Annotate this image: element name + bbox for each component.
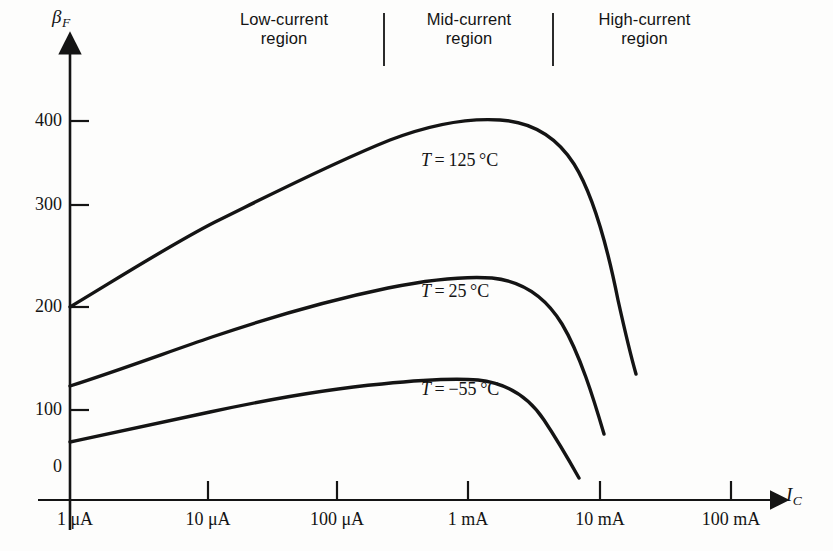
x-axis-label-subscript: C (792, 493, 802, 508)
curve-label-t125-equals: = (431, 150, 448, 170)
y-tick-label-0: 0 (0, 456, 62, 477)
curve-tm55 (70, 379, 579, 478)
curve-label-tm55-equals: = (431, 379, 448, 399)
x-axis-label: IC (786, 484, 802, 509)
region-label-high-current: High-current region (562, 10, 727, 49)
y-axis-ticks (70, 121, 89, 410)
curve-t125 (70, 120, 636, 374)
curve-label-tm55-value: −55 °C (448, 379, 499, 399)
chart-plot-area (0, 0, 833, 551)
x-tick-label-1ua: 1 μA (30, 509, 120, 530)
curve-label-t125-value: 125 °C (448, 150, 498, 170)
curve-label-t25: T = 25 °C (421, 281, 489, 302)
y-axis-label-subscript: F (61, 15, 70, 30)
x-tick-label-10ua: 10 μA (156, 509, 260, 530)
curve-label-t25-value: 25 °C (448, 281, 489, 301)
region-label-mid-current: Mid-current region (393, 10, 545, 49)
curve-label-tm55-symbol: T (421, 379, 431, 399)
curve-label-tm55: T = −55 °C (421, 379, 499, 400)
y-tick-label-200: 200 (0, 296, 62, 317)
curve-t25 (70, 277, 604, 434)
region-label-low-current: Low-current region (184, 10, 384, 49)
x-tick-label-100ma: 100 mA (671, 509, 791, 530)
y-axis-label: βF (52, 6, 70, 31)
y-tick-label-400: 400 (0, 110, 62, 131)
x-tick-label-1ma: 1 mA (418, 509, 518, 530)
x-axis-ticks (208, 481, 731, 500)
curve-label-t25-equals: = (431, 281, 448, 301)
y-tick-label-100: 100 (0, 399, 62, 420)
beta-f-vs-collector-current-chart: Low-current region Mid-current region Hi… (0, 0, 833, 551)
x-tick-label-100ua: 100 μA (278, 509, 396, 530)
y-tick-label-300: 300 (0, 194, 62, 215)
curve-label-t125: T = 125 °C (421, 150, 498, 171)
curve-label-t125-symbol: T (421, 150, 431, 170)
curve-label-t25-symbol: T (421, 281, 431, 301)
x-tick-label-10ma: 10 mA (546, 509, 654, 530)
